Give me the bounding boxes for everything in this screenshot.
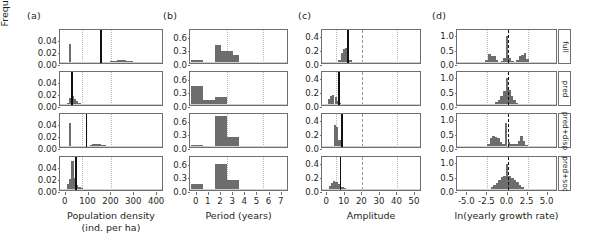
- y-tick-label: 0.4: [305, 117, 319, 126]
- y-tick-mark: [455, 107, 458, 108]
- x-tick-mark: [232, 192, 233, 195]
- baseline: [60, 62, 162, 63]
- observed-value-line: [347, 30, 349, 63]
- y-tick-mark: [58, 65, 61, 66]
- y-tick-mark: [58, 149, 61, 150]
- y-tick-mark: [320, 93, 323, 94]
- x-tick-label: 40: [391, 196, 402, 206]
- y-tick-mark: [188, 80, 191, 81]
- x-tick-label: -5.0: [458, 196, 475, 206]
- baseline: [322, 62, 420, 63]
- x-tick-label: 400: [148, 196, 164, 206]
- plot-area: [190, 30, 287, 63]
- baseline: [457, 189, 556, 190]
- y-tick-mark: [188, 149, 191, 150]
- y-tick-label: 0.4: [305, 33, 319, 42]
- y-tick-mark: [320, 121, 323, 122]
- plot-area: [322, 157, 420, 190]
- plot-area: [457, 72, 556, 105]
- y-tick-label: 0.04: [38, 37, 57, 46]
- baseline: [322, 189, 420, 190]
- x-tick-label: 300: [125, 196, 141, 206]
- x-tick-mark: [527, 192, 528, 195]
- y-tick-label: 0.5: [440, 46, 454, 55]
- y-tick-mark: [188, 192, 191, 193]
- y-tick-label: 1.0: [440, 32, 454, 41]
- plot-area: [457, 30, 556, 63]
- x-tick-label: 200: [102, 196, 118, 206]
- histogram-panel-a-pred: 0.000.020.04: [59, 71, 163, 106]
- row-strip-text: pred+soc: [560, 156, 569, 191]
- histogram-panel-c-pred+soc: 0.00.20.4: [321, 156, 421, 191]
- gridline: [397, 30, 398, 63]
- x-axis-title: Population density(ind. per ha): [39, 210, 183, 234]
- y-tick-label: 0.0: [305, 61, 319, 70]
- y-tick-mark: [58, 180, 61, 181]
- observed-value-line: [508, 30, 509, 63]
- x-tick-mark: [396, 192, 397, 195]
- x-tick-mark: [196, 192, 197, 195]
- observed-value-line: [86, 114, 88, 147]
- x-tick-mark: [65, 192, 66, 195]
- y-tick-label: 0.0: [173, 61, 187, 70]
- y-tick-label: 0.0: [173, 188, 187, 197]
- plot-area: [322, 114, 420, 147]
- y-tick-mark: [188, 93, 191, 94]
- gridline: [263, 114, 264, 147]
- x-tick-label: 0: [62, 196, 67, 206]
- x-axis-title-line1: ln(yearly growth rate): [436, 210, 577, 222]
- y-tick-label: 0.02: [38, 133, 57, 142]
- y-tick-mark: [188, 165, 191, 166]
- y-tick-mark: [188, 51, 191, 52]
- y-tick-mark: [58, 192, 61, 193]
- y-tick-mark: [455, 163, 458, 164]
- x-tick-label: 2: [217, 196, 222, 206]
- baseline: [457, 146, 556, 147]
- y-tick-label: 0.6: [173, 160, 187, 169]
- y-tick-label: 0.6: [173, 117, 187, 126]
- y-tick-label: 0.00: [38, 145, 57, 154]
- x-axis-title-line1: Period (years): [169, 210, 308, 222]
- x-tick-mark: [281, 192, 282, 195]
- y-tick-label: 0.3: [173, 89, 187, 98]
- histogram-panel-a-pred+soc: 0.000.020.04: [59, 156, 163, 191]
- histogram-panel-b-pred+soc: 0.00.30.6: [189, 156, 288, 191]
- x-tick-mark: [88, 192, 89, 195]
- y-tick-mark: [455, 65, 458, 66]
- gridline: [528, 114, 529, 147]
- y-tick-label: 0.5: [440, 130, 454, 139]
- reference-dashed-line: [362, 157, 363, 190]
- x-tick-mark: [361, 192, 362, 195]
- y-tick-mark: [58, 107, 61, 108]
- row-strip-label-pred+soc: pred+soc: [558, 156, 571, 191]
- x-tick-mark: [269, 192, 270, 195]
- histogram-panel-b-pred+disp: 0.00.30.6: [189, 113, 288, 148]
- x-axis-title-line1: Amplitude: [301, 210, 441, 222]
- histogram-panel-a-pred+disp: 0.000.020.04: [59, 113, 163, 148]
- x-tick-mark: [208, 192, 209, 195]
- gridline: [111, 30, 112, 63]
- y-tick-mark: [188, 65, 191, 66]
- y-tick-label: 0.00: [38, 61, 57, 70]
- gridline: [263, 30, 264, 63]
- y-tick-mark: [188, 135, 191, 136]
- histogram-panel-b-full: 0.00.30.6: [189, 29, 288, 64]
- y-tick-label: 0.4: [305, 160, 319, 169]
- gridline: [263, 157, 264, 190]
- y-tick-mark: [455, 192, 458, 193]
- reference-dashed-line: [362, 114, 363, 147]
- gridline: [82, 114, 83, 147]
- gridline: [336, 30, 337, 63]
- plot-area: [190, 114, 287, 147]
- y-tick-mark: [58, 95, 61, 96]
- x-tick-label: 0: [324, 196, 329, 206]
- histogram-panel-b-pred: 0.00.30.6: [189, 71, 288, 106]
- x-tick-mark: [220, 192, 221, 195]
- histogram-panel-d-pred+soc: 0.00.51.0: [456, 156, 557, 191]
- histogram-panel-c-pred+disp: 0.00.20.4: [321, 113, 421, 148]
- x-tick-mark: [507, 192, 508, 195]
- y-tick-label: 1.0: [440, 116, 454, 125]
- y-tick-label: 0.0: [305, 188, 319, 197]
- y-tick-label: 0.6: [173, 75, 187, 84]
- y-tick-mark: [58, 125, 61, 126]
